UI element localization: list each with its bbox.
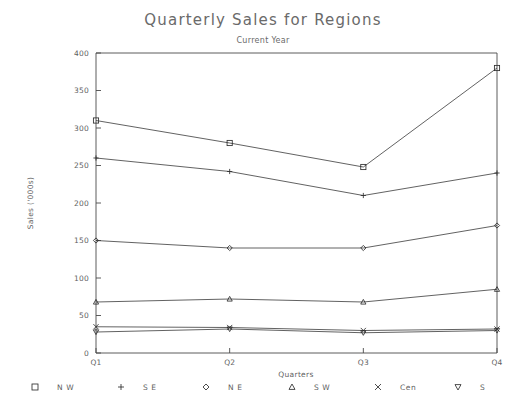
legend-item-sw[interactable]: S W <box>289 383 330 392</box>
legend-item-s[interactable]: S <box>455 383 485 392</box>
y-tick-label: 50 <box>79 311 89 320</box>
data-point-marker <box>361 193 366 198</box>
legend-item-se[interactable]: S E <box>118 383 157 392</box>
y-tick-label: 150 <box>74 236 89 245</box>
plot-axes <box>96 53 497 353</box>
y-tick-label: 250 <box>74 161 89 170</box>
legend-label: S E <box>143 383 157 392</box>
data-point-marker <box>227 169 232 174</box>
legend-label: Cen <box>400 383 416 392</box>
data-point-marker <box>203 384 209 390</box>
x-axis-ticks <box>96 348 497 353</box>
data-point-marker <box>118 384 124 390</box>
legend-item-cen[interactable]: Cen <box>375 383 416 392</box>
y-tick-label: 400 <box>74 49 89 58</box>
line-chart-plot: 050100150200250300350400 Q1Q2Q3Q4 Quarte… <box>0 0 526 415</box>
x-axis-tick-labels: Q1Q2Q3Q4 <box>90 358 502 367</box>
data-point-marker <box>455 385 461 390</box>
legend-label: S W <box>314 383 330 392</box>
x-tick-label: Q3 <box>358 358 369 367</box>
x-axis-title: Quarters <box>278 370 313 379</box>
legend-label: S <box>480 383 485 392</box>
legend-label: N E <box>228 383 243 392</box>
legend-item-nw[interactable]: N W <box>32 383 74 392</box>
series-s <box>93 327 499 335</box>
y-axis-title: Sales ('000s) <box>26 177 35 229</box>
y-axis-tick-labels: 050100150200250300350400 <box>74 49 89 358</box>
y-axis-ticks <box>96 53 101 353</box>
y-tick-label: 200 <box>74 199 89 208</box>
y-tick-label: 100 <box>74 274 89 283</box>
series-ne <box>93 223 499 251</box>
data-point-marker <box>32 384 38 390</box>
series-sw <box>93 287 499 304</box>
legend-item-ne[interactable]: N E <box>203 383 243 392</box>
data-point-marker <box>494 170 499 175</box>
y-tick-label: 350 <box>74 86 89 95</box>
x-tick-label: Q4 <box>491 358 502 367</box>
x-tick-label: Q2 <box>224 358 235 367</box>
data-point-marker <box>289 384 295 389</box>
legend-label: N W <box>57 383 74 392</box>
chart-legend: N WS EN ES WCenS <box>32 383 485 392</box>
chart-container: Quarterly Sales for Regions Current Year… <box>0 0 526 415</box>
data-point-marker <box>93 155 98 160</box>
series-nw <box>93 65 499 169</box>
data-point-marker <box>375 384 381 390</box>
x-tick-label: Q1 <box>90 358 101 367</box>
y-tick-label: 300 <box>74 124 89 133</box>
data-series-layer <box>93 65 499 335</box>
series-se <box>93 155 499 198</box>
y-tick-label: 0 <box>84 349 89 358</box>
